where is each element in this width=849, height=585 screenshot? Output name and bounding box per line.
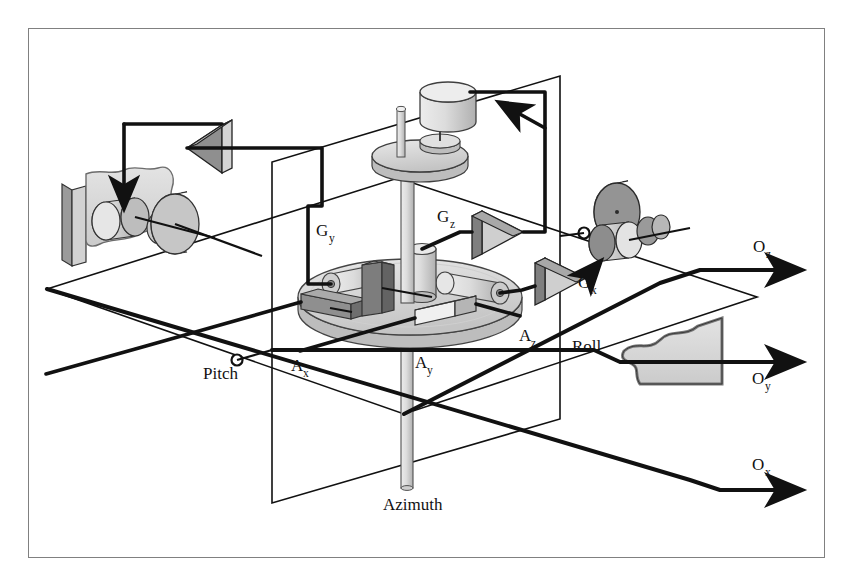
wire-amp-gz-to-azimuth (500, 103, 545, 232)
label-accel-z: A z (519, 326, 536, 349)
label-output-x-sub: x (765, 466, 771, 478)
label-gyro-y-sub: y (329, 232, 335, 245)
label-output-x: O x (752, 455, 771, 478)
figure-root: G y G z G x A x A y A z (0, 0, 849, 585)
label-accel-z-sub: z (531, 337, 536, 349)
label-output-z: O z (753, 237, 771, 260)
label-output-y-base: O (752, 369, 764, 388)
label-output-x-base: O (752, 455, 764, 474)
wire-gy-to-amp (187, 148, 331, 284)
label-roll: Roll (572, 337, 602, 356)
label-output-z-base: O (753, 237, 765, 256)
label-gyro-z-base: G (437, 207, 449, 226)
label-gyro-y: G y (316, 221, 335, 245)
wire-gz-to-amp (422, 232, 472, 249)
azimuth-pin-post (397, 106, 406, 157)
label-pitch: Pitch (203, 364, 238, 383)
azimuth-drive-motor (420, 82, 476, 132)
label-accel-y-sub: y (427, 364, 433, 377)
pitch-actuator-cluster (62, 167, 199, 266)
label-gyro-z: G z (437, 207, 455, 230)
label-gyro-x: G x (578, 273, 597, 296)
label-azimuth: Azimuth (383, 495, 443, 514)
roll-actuator-cluster (589, 181, 670, 261)
label-output-z-sub: z (766, 248, 771, 260)
label-accel-y: A y (415, 353, 433, 377)
label-output-y-sub: y (765, 380, 771, 393)
inertial-platform-diagram: G y G z G x A x A y A z (0, 0, 849, 585)
amplifier-gz (472, 211, 523, 259)
label-gyro-y-base: G (316, 221, 328, 240)
label-gyro-x-sub: x (591, 284, 597, 296)
label-accel-x-sub: x (303, 367, 309, 379)
label-gyro-z-sub: z (450, 218, 455, 230)
label-gyro-x-base: G (578, 273, 590, 292)
roll-reference-blob (622, 318, 722, 384)
label-output-y: O y (752, 369, 771, 393)
wire-ax-output (46, 302, 301, 374)
